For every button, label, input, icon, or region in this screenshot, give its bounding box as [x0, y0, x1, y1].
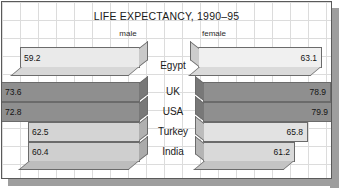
- bar-value-male-turkey: 62.5: [32, 127, 49, 137]
- category-label-egypt: Egypt: [142, 60, 204, 71]
- bar-female-uk[interactable]: 78.9: [203, 82, 331, 102]
- bar-value-male-egypt: 59.2: [24, 53, 41, 63]
- bar-face-bottom: [10, 67, 139, 76]
- column-header-female: female: [188, 29, 240, 38]
- category-label-uk: UK: [142, 86, 204, 97]
- bar-value-female-uk: 78.9: [309, 87, 326, 97]
- bar-male-india[interactable]: 60.4: [28, 142, 140, 162]
- bar-value-female-turkey: 65.8: [286, 127, 303, 137]
- plot-area: LIFE EXPECTANCY, 1990–95 male female 59.…: [1, 1, 332, 179]
- bar-male-usa[interactable]: 72.8: [1, 102, 140, 122]
- bar-female-turkey[interactable]: 65.8: [203, 122, 308, 142]
- bar-value-male-usa: 72.8: [5, 107, 22, 117]
- bar-female-egypt[interactable]: 63.1: [198, 47, 322, 68]
- bar-value-female-india: 61.2: [273, 147, 290, 157]
- life-expectancy-chart: LIFE EXPECTANCY, 1990–95 male female 59.…: [0, 0, 343, 188]
- bar-female-usa[interactable]: 79.9: [203, 102, 332, 122]
- chart-title: LIFE EXPECTANCY, 1990–95: [2, 10, 331, 22]
- bar-male-uk[interactable]: 73.6: [1, 82, 140, 102]
- bar-male-egypt[interactable]: 59.2: [20, 47, 140, 68]
- bar-face-bottom: [188, 67, 321, 76]
- bar-value-male-india: 60.4: [32, 147, 49, 157]
- bar-female-india[interactable]: 61.2: [203, 142, 295, 162]
- bar-face-bottom: [18, 161, 139, 170]
- bar-male-turkey[interactable]: 62.5: [28, 122, 140, 142]
- bar-face-bottom: [193, 161, 294, 170]
- category-label-usa: USA: [142, 106, 204, 117]
- column-header-male: male: [106, 29, 150, 38]
- bar-value-male-uk: 73.6: [5, 87, 22, 97]
- bar-value-female-egypt: 63.1: [300, 53, 317, 63]
- category-label-india: India: [142, 146, 204, 157]
- category-label-turkey: Turkey: [142, 126, 204, 137]
- bar-value-female-usa: 79.9: [311, 107, 328, 117]
